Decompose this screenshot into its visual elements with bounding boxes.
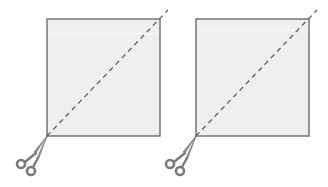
left-panel [17,10,168,175]
scissors-icon [166,136,196,175]
right-panel [166,10,317,175]
scissors-icon [17,136,47,175]
diagram-canvas [0,0,328,187]
